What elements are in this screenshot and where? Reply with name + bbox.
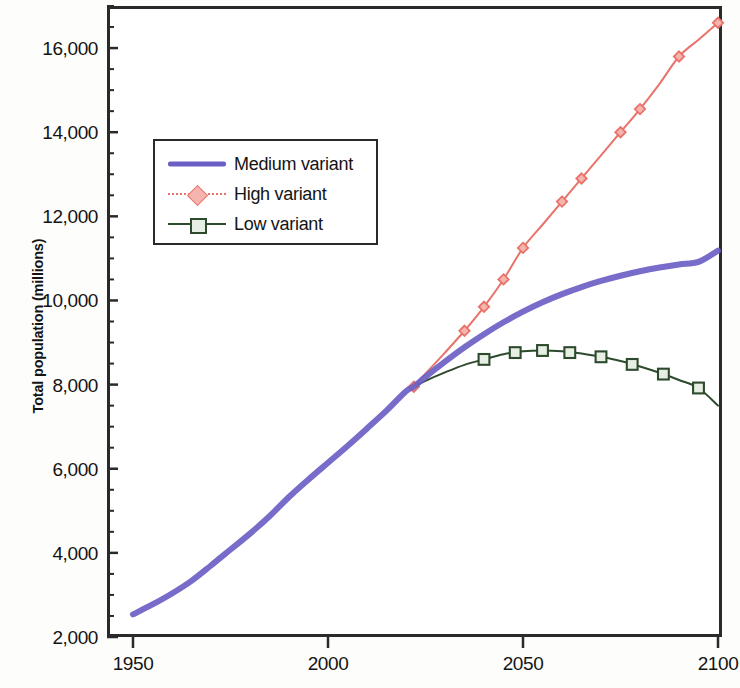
y-tick-label-4000: 4,000 [8,543,98,562]
legend-marker-low-square [168,213,226,235]
legend-item-high-variant: High variant [155,179,376,209]
plot-area [107,6,722,637]
legend-label-high-variant: High variant [234,184,326,205]
legend-marker-high-diamond [168,183,226,205]
legend-label-low-variant: Low variant [234,214,323,235]
x-tick-label-2000: 2000 [268,654,388,673]
legend-label-medium-variant: Medium variant [234,154,353,175]
chart-legend: Medium variant High variant Low variant [153,139,378,245]
y-tick-label-14000: 14,000 [8,123,98,142]
legend-item-medium-variant: Medium variant [155,149,376,179]
x-tick-label-2100: 2100 [658,654,740,673]
y-axis-title: Total population (millions) [30,196,46,456]
y-tick-label-12000: 12,000 [8,207,98,226]
y-tick-label-6000: 6,000 [8,459,98,478]
y-tick-label-2000: 2,000 [8,628,98,647]
x-tick-label-2050: 2050 [463,654,583,673]
y-tick-label-10000: 10,000 [8,291,98,310]
legend-marker-medium-line [168,153,226,175]
legend-item-low-variant: Low variant [155,209,376,239]
y-tick-label-8000: 8,000 [8,375,98,394]
y-tick-label-16000: 16,000 [8,39,98,58]
population-projection-chart: Total population (millions) 2,0004,0006,… [0,0,740,688]
x-tick-label-1950: 1950 [73,654,193,673]
